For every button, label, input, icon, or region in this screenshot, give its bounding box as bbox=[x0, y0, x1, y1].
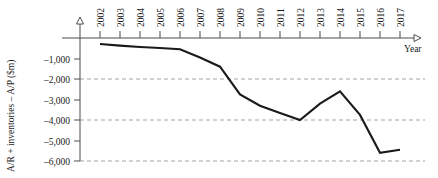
y-axis bbox=[74, 17, 84, 161]
y-axis-title: A/R + inventories – A/P ($m) bbox=[6, 60, 17, 172]
x-tick-label-2014: 2014 bbox=[336, 8, 346, 27]
line-chart: 2002 2003 2004 2005 2006 2007 2008 2009 … bbox=[0, 0, 438, 178]
x-tick-label-2012: 2012 bbox=[296, 8, 306, 27]
y-tick-label-minus-6000: –6,000 bbox=[43, 157, 70, 167]
x-tick-label-2011: 2011 bbox=[276, 8, 286, 27]
x-tick-label-2008: 2008 bbox=[216, 8, 226, 27]
x-tick-label-2007: 2007 bbox=[196, 8, 206, 27]
x-tick-label-2003: 2003 bbox=[116, 8, 126, 27]
y-tick-label-minus-2000: –2,000 bbox=[43, 75, 70, 85]
y-tick-labels: –1,000 –2,000 –3,000 –4,000 –5,000 –6,00… bbox=[43, 55, 70, 167]
y-tick-label-minus-3000: –3,000 bbox=[43, 96, 70, 106]
x-tick-label-2009: 2009 bbox=[236, 8, 246, 27]
x-tick-label-2013: 2013 bbox=[316, 8, 326, 27]
x-tick-label-2016: 2016 bbox=[376, 8, 386, 27]
y-axis-arrowhead bbox=[77, 17, 84, 24]
x-tick-label-2005: 2005 bbox=[156, 8, 166, 27]
x-tick-label-2017: 2017 bbox=[396, 8, 406, 27]
x-tick-label-2015: 2015 bbox=[356, 8, 366, 27]
x-tick-label-2010: 2010 bbox=[256, 8, 266, 27]
x-axis bbox=[62, 31, 421, 42]
x-tick-labels: 2002 2003 2004 2005 2006 2007 2008 2009 … bbox=[96, 8, 406, 27]
x-axis-title: Year bbox=[404, 44, 422, 54]
y-tick-label-minus-4000: –4,000 bbox=[43, 116, 70, 126]
x-tick-label-2002: 2002 bbox=[96, 8, 106, 27]
chart-screenshot: 2002 2003 2004 2005 2006 2007 2008 2009 … bbox=[0, 0, 438, 178]
x-tick-label-2004: 2004 bbox=[136, 8, 146, 27]
gridlines bbox=[80, 79, 425, 161]
y-tick-label-minus-1000: –1,000 bbox=[43, 55, 70, 65]
y-tick-label-minus-5000: –5,000 bbox=[43, 137, 70, 147]
data-series-line bbox=[100, 44, 400, 153]
x-axis-arrowhead bbox=[414, 35, 421, 42]
x-tick-label-2006: 2006 bbox=[176, 8, 186, 27]
